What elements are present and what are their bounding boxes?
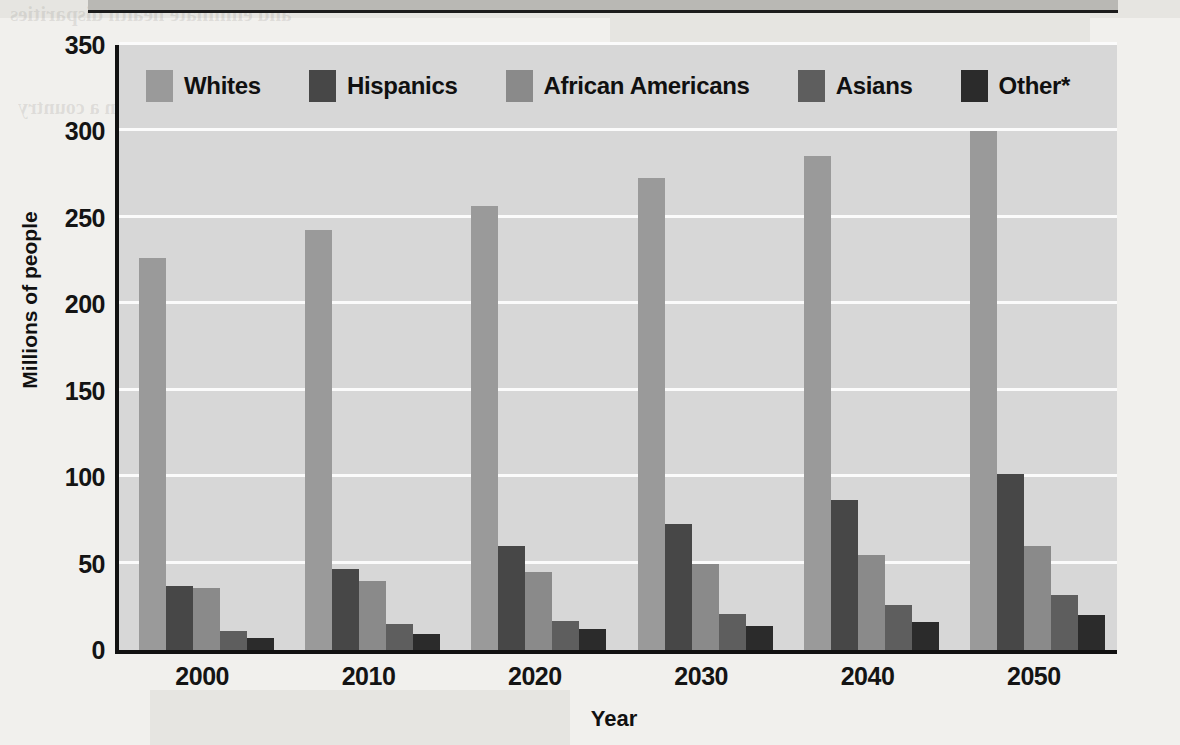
- y-axis-tick-labels: 050100150200250300350: [0, 0, 1180, 745]
- x-tick-2030: 2030: [674, 662, 728, 691]
- x-axis-title: Year: [115, 706, 1113, 732]
- y-tick-0: 0: [0, 636, 105, 665]
- population-projection-bar-chart: WhitesHispanicsAfrican AmericansAsiansOt…: [0, 0, 1180, 745]
- x-tick-2020: 2020: [508, 662, 562, 691]
- y-tick-250: 250: [0, 203, 105, 232]
- y-axis-title: Millions of people: [18, 110, 42, 490]
- x-tick-2000: 2000: [175, 662, 229, 691]
- y-tick-300: 300: [0, 117, 105, 146]
- y-tick-150: 150: [0, 376, 105, 405]
- x-tick-2040: 2040: [841, 662, 895, 691]
- x-tick-2010: 2010: [342, 662, 396, 691]
- x-tick-2050: 2050: [1007, 662, 1061, 691]
- y-tick-200: 200: [0, 290, 105, 319]
- y-tick-350: 350: [0, 31, 105, 60]
- page-canvas: and eliminate health disparities of peop…: [0, 0, 1180, 745]
- y-tick-50: 50: [0, 549, 105, 578]
- y-tick-100: 100: [0, 463, 105, 492]
